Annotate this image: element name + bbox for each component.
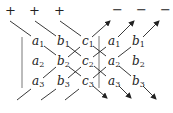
plus-sign: + xyxy=(54,3,65,18)
diagonal-arrow-plus-3 xyxy=(93,46,106,56)
sarrus-rule-diagram: + + + − − − xyxy=(0,0,173,113)
diagonal-arrow-minus-2 xyxy=(68,67,81,78)
plus-sign: + xyxy=(29,3,40,18)
diagonal-arrow-plus-1 xyxy=(44,46,56,55)
entry-b3-repeat: b3 xyxy=(132,74,145,89)
diagonal-arrow-minus-1 xyxy=(68,47,80,57)
plus-signs: + + + xyxy=(5,3,65,18)
minus-sign: − xyxy=(160,2,171,17)
entry-c3: c3 xyxy=(82,74,94,89)
diagonal-arrow-minus-1 xyxy=(43,67,56,78)
diagonal-arrow-plus-3 xyxy=(119,66,131,76)
diagonal-arrow-minus-3 xyxy=(65,89,79,100)
diagonal-arrow-plus-2 xyxy=(119,86,131,98)
entry-a3-repeat: a3 xyxy=(108,74,120,89)
entry-a3: a3 xyxy=(32,74,44,89)
diagonal-arrow-minus-2 xyxy=(41,89,56,100)
entry-a1: a1 xyxy=(32,34,44,49)
diagonal-arrow-plus-2 xyxy=(94,66,106,76)
entry-b2: b2 xyxy=(57,54,70,69)
entry-b3: b3 xyxy=(57,74,70,89)
entry-c1: c1 xyxy=(82,34,94,49)
entry-c2: c2 xyxy=(82,54,94,69)
minus-signs: − − − xyxy=(112,2,171,17)
entry-a2: a2 xyxy=(32,54,44,69)
entry-b2-repeat: b2 xyxy=(132,54,145,69)
minus-sign: − xyxy=(136,2,147,17)
diagonal-arrow-minus-3 xyxy=(143,21,159,37)
diagonal-arrow-plus-3 xyxy=(143,86,156,99)
diagonal-arrow-plus-1 xyxy=(93,86,107,98)
entry-b1-repeat: b1 xyxy=(132,34,145,49)
diagonal-arrow-minus-1 xyxy=(17,89,31,100)
entry-b1: b1 xyxy=(57,34,70,49)
diagonal-arrow-minus-3 xyxy=(93,67,106,78)
minus-sign: − xyxy=(112,2,123,17)
diagonal-arrow-minus-2 xyxy=(93,47,106,57)
matrix-entries: a1 b1 c1 a1 b1 a2 b2 c2 a2 b2 a3 b3 c3 a… xyxy=(32,34,145,89)
diagonal-arrow-plus-1 xyxy=(10,21,31,36)
plus-sign: + xyxy=(5,3,16,18)
